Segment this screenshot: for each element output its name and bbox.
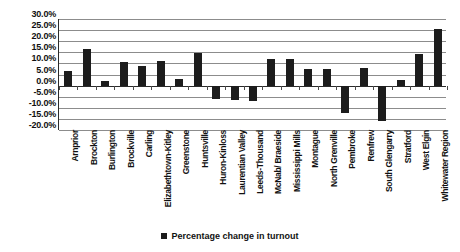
x-label-slot: Carling [132,130,150,230]
bar-slot [133,19,151,130]
bar[interactable] [378,86,386,122]
bar[interactable] [415,54,423,86]
bar-chart: 30.0%25.0%20.0%15.0%10.0%5.0%0.0%-5.0%-1… [0,0,460,252]
chart-legend: Percentage change in turnout [0,231,460,241]
x-axis-tick-labels: ArnpriorBrocktonBurlingtonBrockvilleCarl… [58,130,446,230]
x-label-slot: West Elgin [409,130,427,230]
y-axis-tick-label: 30.0% [0,10,56,19]
y-axis-tick-label: 20.0% [0,32,56,41]
bar-slot [207,19,225,130]
bar-slot [77,19,95,130]
legend-swatch-icon [161,233,167,239]
bar[interactable] [434,29,442,85]
bar[interactable] [249,86,257,102]
x-label-slot: Stratford [391,130,409,230]
bar[interactable] [64,71,72,85]
bar[interactable] [267,59,275,86]
x-label-slot: McNab/ Braeside [261,130,279,230]
bar[interactable] [83,49,91,86]
y-axis-tick-label: -15.0% [0,109,56,118]
bar-slot [96,19,114,130]
bar[interactable] [194,53,202,86]
bar-slot [410,19,428,130]
bar-slot [392,19,410,130]
x-axis-tick-label: Whitewater Region [440,130,449,201]
x-label-slot: Elizabethtown-Kitley [150,130,168,230]
bar-slot [170,19,188,130]
y-axis-tick-labels: 30.0%25.0%20.0%15.0%10.0%5.0%0.0%-5.0%-1… [0,14,56,126]
x-label-slot: Arnprior [58,130,76,230]
x-label-slot: Brockville [113,130,131,230]
bar[interactable] [341,86,349,114]
x-label-slot: Mississippi Mills [280,130,298,230]
y-axis-tick-label: 0.0% [0,76,56,85]
bar[interactable] [157,61,165,86]
bar-slot [59,19,77,130]
bar-slot [225,19,243,130]
legend-label: Percentage change in turnout [171,231,298,241]
x-label-slot: Renfrew [354,130,372,230]
bar-slot [262,19,280,130]
bar[interactable] [175,79,183,86]
bar-slot [373,19,391,130]
bar[interactable] [231,86,239,100]
bar-slot [188,19,206,130]
bar[interactable] [138,66,146,86]
bar[interactable] [212,86,220,99]
x-label-slot: Montague [298,130,316,230]
bar[interactable] [286,59,294,86]
x-label-slot: Pembroke [335,130,353,230]
y-axis-tick-label: 10.0% [0,54,56,63]
y-axis-tick-label: -10.0% [0,98,56,107]
bar-slot [355,19,373,130]
bar-slot [429,19,447,130]
bar-slot [151,19,169,130]
x-label-slot: Burlington [95,130,113,230]
x-label-slot: North Grenville [317,130,335,230]
y-axis-tick-label: 15.0% [0,43,56,52]
y-axis-tick-label: -20.0% [0,121,56,130]
bar[interactable] [360,68,368,86]
x-label-slot: Huntsville [187,130,205,230]
bar-slot [114,19,132,130]
x-label-slot: Whitewater Region [428,130,446,230]
x-label-slot: Leeds-Thousand [243,130,261,230]
x-label-slot: Greenstone [169,130,187,230]
x-label-slot: Huron-Kinloss [206,130,224,230]
bar-slot [299,19,317,130]
bar[interactable] [120,62,128,86]
x-axis-tick [447,86,448,90]
x-label-slot: Brockton [76,130,94,230]
bar-slot [244,19,262,130]
bar-slot [336,19,354,130]
x-label-slot: Laurentian Valley [224,130,242,230]
bar[interactable] [101,81,109,85]
y-axis-tick-label: 25.0% [0,21,56,30]
bar-series [59,19,446,130]
bar[interactable] [304,69,312,86]
y-axis-tick-label: -5.0% [0,87,56,96]
x-label-slot: South Glengarry [372,130,390,230]
bar-slot [318,19,336,130]
bar[interactable] [323,69,331,86]
y-axis-tick-label: 5.0% [0,65,56,74]
plot-area [58,19,446,130]
bar[interactable] [397,80,405,86]
bar-slot [281,19,299,130]
